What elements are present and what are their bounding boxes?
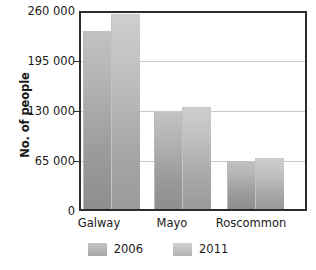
y-tick-label-130000: 130 000 xyxy=(9,106,75,118)
bar-galway-2006 xyxy=(83,31,112,210)
y-tick-label-65000: 65 000 xyxy=(9,156,75,168)
legend-label-2011: 2011 xyxy=(199,244,228,256)
legend-item-2006: 2006 xyxy=(88,243,143,256)
bar-roscommon-2011 xyxy=(255,158,284,209)
legend-swatch-2011-icon xyxy=(173,243,192,256)
bar-galway-2011 xyxy=(111,14,140,209)
legend-label-2006: 2006 xyxy=(114,244,143,256)
legend-item-2011: 2011 xyxy=(173,243,228,256)
bar-mayo-2006 xyxy=(154,112,183,209)
bar-roscommon-2006 xyxy=(227,161,256,210)
y-tick-label-195000: 195 000 xyxy=(9,56,75,68)
bar-chart: No. of people 260 000 195 000 130 000 65… xyxy=(0,0,316,270)
legend-swatch-2006-icon xyxy=(88,243,107,256)
plot-area xyxy=(79,11,307,211)
chart-legend: 2006 2011 xyxy=(0,243,316,256)
x-tick-label-roscommon: Roscommon xyxy=(211,216,291,230)
y-tick-label-260000: 260 000 xyxy=(9,6,75,18)
x-tick-label-galway: Galway xyxy=(69,216,129,230)
y-tick-label-0: 0 xyxy=(9,206,75,218)
bar-mayo-2011 xyxy=(182,107,211,210)
x-tick-label-mayo: Mayo xyxy=(142,216,202,230)
